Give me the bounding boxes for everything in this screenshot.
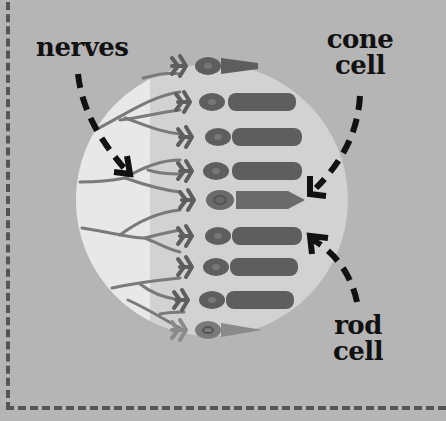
label-cone-line1: cone — [310, 26, 410, 52]
label-cone-line2: cell — [310, 52, 410, 78]
label-nerves-text: nerves — [36, 34, 128, 60]
label-cone-cell: cone cell — [310, 26, 410, 78]
label-rod-line2: cell — [318, 338, 398, 364]
label-rod-cell: rod cell — [318, 312, 398, 364]
label-nerves: nerves — [36, 34, 128, 60]
label-rod-line1: rod — [318, 312, 398, 338]
